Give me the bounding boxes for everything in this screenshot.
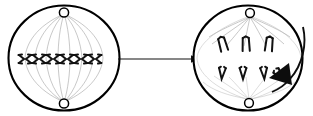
right-cell-bottom-centrosome — [245, 99, 254, 108]
cell-division-diagram — [0, 0, 313, 116]
right-cell — [194, 6, 303, 111]
transition-arrow — [118, 55, 199, 62]
right-cell-top-centrosome — [246, 9, 255, 18]
left-cell-bottom-centrosome — [59, 99, 68, 108]
left-cell-top-centrosome — [59, 8, 68, 17]
diagram-canvas — [0, 0, 313, 116]
left-cell — [9, 6, 120, 111]
right-cell-membrane — [194, 6, 303, 111]
